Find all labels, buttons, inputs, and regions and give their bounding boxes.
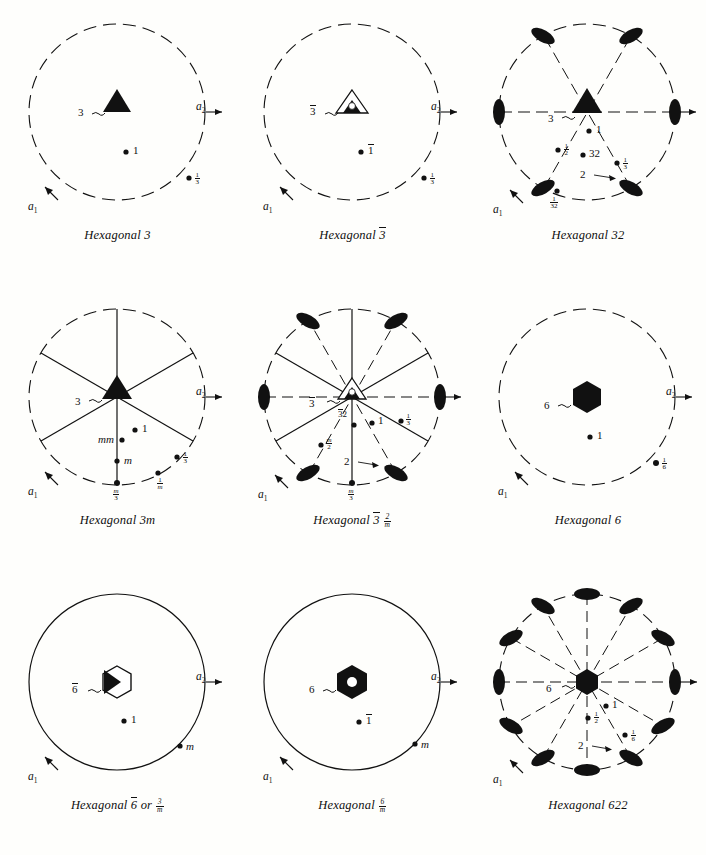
label-mirror-m: m <box>421 739 429 750</box>
label-two-fold: 2 <box>578 740 584 751</box>
a2-axis-arrowhead <box>685 394 692 400</box>
label-height-fraction: 16 <box>631 729 636 743</box>
pointer-squiggle-icon <box>92 113 105 116</box>
general-point-dot <box>554 188 559 193</box>
label-general-point-1: 1 <box>133 145 139 156</box>
label-height-fraction: 12 <box>564 143 569 157</box>
label-general-point-1: 1 <box>612 699 618 710</box>
axis-label-a2: a2 <box>196 670 206 685</box>
stereogram-hexagonal-622: 6 1 12 16 2 a2 a1 <box>470 570 706 802</box>
label-general-point-32: 32 <box>589 148 600 159</box>
general-point-dot <box>121 718 126 723</box>
caption-hexagonal-32: Hexagonal 32 <box>470 228 706 243</box>
general-point-dot <box>412 741 417 746</box>
caption-hexagonal-622: Hexagonal 622 <box>470 798 706 813</box>
stereogram-hexagonal-6: 6 1 16 a2 a1 <box>470 285 706 517</box>
label-three-bar-axis: 3 <box>309 398 315 409</box>
inversion-center-icon <box>349 389 355 395</box>
general-point-dot <box>186 175 191 180</box>
stereogram-hexagonal-3: 3 1 13 a2 a1 <box>0 0 235 232</box>
pointer-squiggle-icon <box>323 690 336 693</box>
inversion-center-icon <box>349 103 356 110</box>
label-height-fraction: 1m <box>157 477 163 491</box>
general-point-dot <box>177 743 182 748</box>
two-fold-label-arrowhead <box>609 175 616 181</box>
general-point-dot <box>603 703 608 708</box>
stereogram-hexagonal-3m: 3 1 mm m 13 1m m3 a2 a1 <box>0 285 235 517</box>
axis-label-a1: a1 <box>28 200 38 215</box>
general-point-dot <box>119 437 124 442</box>
stereogram-hexagonal-6-over-m: 6 1 m a2 a1 <box>235 570 470 802</box>
label-six-fold: 6 <box>544 400 550 411</box>
axis-label-a1: a1 <box>28 485 38 500</box>
diagram-cell-hexagonal-3: 3 1 13 a2 a1 Hexagonal 3 <box>0 0 235 285</box>
stereogram-figure-grid: 3 1 13 a2 a1 Hexagonal 3 <box>0 0 706 855</box>
general-point-dot <box>614 160 619 165</box>
axis-label-a2: a2 <box>435 385 445 400</box>
a2-axis-arrowhead <box>215 394 222 400</box>
label-general-point-3bar2: 32 <box>338 410 347 419</box>
label-two-fold: 2 <box>580 169 586 180</box>
a2-axis-arrowhead <box>689 109 696 115</box>
axis-label-a1: a1 <box>263 770 273 785</box>
label-six-fold: 6 <box>309 684 315 695</box>
general-point-dot <box>356 719 361 724</box>
general-point-dot <box>123 149 128 154</box>
diagram-cell-hexagonal-6: 6 1 16 a2 a1 Hexagonal 6 <box>470 285 706 570</box>
general-point-dot <box>114 480 120 486</box>
label-height-fraction: 132 <box>550 196 558 210</box>
general-point-dot <box>580 152 585 157</box>
caption-hexagonal-3bar: Hexagonal 3 <box>235 228 470 243</box>
two-fold-label-arrowhead <box>605 746 612 752</box>
caption-hexagonal-3: Hexagonal 3 <box>0 228 235 243</box>
axis-label-a2: a2 <box>431 100 441 115</box>
caption-hexagonal-6: Hexagonal 6 <box>470 513 706 528</box>
diagram-cell-hexagonal-6bar: 6 1 m a2 a1 Hexagonal 6 or 3m <box>0 570 235 855</box>
label-general-point-1bar: 1 <box>368 145 374 156</box>
three-fold-axis-icon <box>103 89 131 112</box>
general-point-dot <box>318 442 323 447</box>
general-point-dot <box>155 470 160 475</box>
label-general-point-1: 1 <box>378 415 384 426</box>
label-height-fraction: m2 <box>326 437 332 451</box>
label-general-point-1: 1 <box>142 423 148 434</box>
a2-axis-arrowhead <box>215 109 222 115</box>
general-point-dot <box>174 454 179 459</box>
six-fold-axis-icon <box>576 669 598 695</box>
diagram-cell-hexagonal-622: 6 1 12 16 2 a2 a1 Hexagonal 622 <box>470 570 706 855</box>
a2-axis-arrowhead <box>454 394 461 400</box>
a2-axis-arrowhead <box>450 679 457 685</box>
label-three-fold: 3 <box>548 113 554 124</box>
axis-label-a2: a2 <box>670 100 680 115</box>
label-general-point-1bar: 1 <box>366 715 372 726</box>
axis-label-a2: a2 <box>196 385 206 400</box>
caption-hexagonal-3bar-2-over-m: Hexagonal 3 2m <box>235 513 470 529</box>
label-height-fraction: m3 <box>348 488 354 502</box>
two-fold-label-arrowhead <box>372 462 379 468</box>
label-height-fraction: 13 <box>195 172 200 186</box>
stereogram-hexagonal-3bar: 3 1 13 a2 a1 <box>235 0 470 232</box>
a2-axis-arrowhead <box>450 109 457 115</box>
general-point-dot <box>132 427 137 432</box>
label-three-bar-axis: 3 <box>310 106 316 117</box>
label-general-point-1: 1 <box>597 430 603 441</box>
label-mirror-mm: mm <box>98 434 114 445</box>
general-point-dot <box>586 128 591 133</box>
axis-label-a1: a1 <box>258 488 268 503</box>
label-general-point-1: 1 <box>131 714 137 725</box>
general-point-dot <box>585 715 590 720</box>
a2-axis-arrowhead <box>215 679 222 685</box>
pointer-squiggle-icon <box>327 401 340 404</box>
general-point-dot <box>369 420 374 425</box>
general-point-dot <box>398 418 403 423</box>
caption-hexagonal-3m: Hexagonal 3m <box>0 513 235 528</box>
axis-label-a1: a1 <box>263 200 273 215</box>
general-point-dot <box>358 149 363 154</box>
general-point-dot <box>653 460 659 466</box>
general-point-dot <box>351 422 356 427</box>
label-height-fraction: 13 <box>183 451 188 465</box>
label-height-fraction: 13 <box>406 413 411 427</box>
caption-hexagonal-6bar: Hexagonal 6 or 3m <box>0 798 235 814</box>
axis-label-a2: a2 <box>671 670 681 685</box>
label-mirror-m: m <box>124 455 132 466</box>
